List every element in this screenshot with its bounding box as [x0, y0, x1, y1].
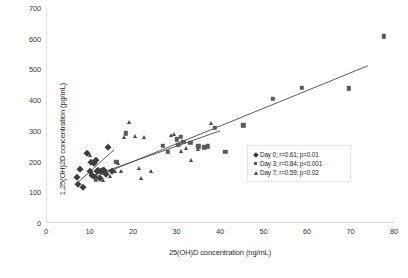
- x-tick-label: 30: [173, 227, 181, 236]
- data-point-square: [188, 140, 192, 144]
- data-point-triangle: [133, 134, 137, 138]
- y-tick-label: 500: [29, 65, 41, 74]
- data-point-triangle: [184, 146, 188, 150]
- y-tick-label: 200: [29, 157, 41, 166]
- x-axis-title: 25(OH)D concentration (ng/mL): [46, 248, 394, 257]
- data-point-square: [223, 150, 227, 154]
- data-point-triangle: [189, 158, 193, 162]
- data-point-triangle: [88, 153, 92, 157]
- data-point-triangle: [137, 166, 141, 170]
- day3-square-icon: [252, 162, 259, 166]
- data-point-square: [93, 178, 97, 182]
- y-tick-label: 300: [29, 126, 41, 135]
- data-point-triangle: [209, 121, 213, 125]
- data-point-square: [347, 86, 351, 90]
- data-point-square: [206, 144, 210, 148]
- legend: Day 0; r=0.61; p=0.01 Day 3; r=0.84; p<0…: [247, 145, 351, 182]
- data-point-triangle: [113, 169, 117, 173]
- legend-item: Day 0; r=0.61; p=0.01: [252, 150, 347, 159]
- day7-triangle-icon: [252, 171, 259, 175]
- data-point-triangle: [139, 176, 143, 180]
- x-tick-label: 60: [303, 227, 311, 236]
- data-point-triangle: [179, 149, 183, 153]
- x-tick-label: 10: [86, 227, 94, 236]
- y-tick-label: 600: [29, 34, 41, 43]
- data-point-triangle: [149, 169, 153, 173]
- data-point-square: [181, 139, 185, 143]
- x-tick-label: 70: [347, 227, 355, 236]
- y-tick-label: 700: [29, 4, 41, 13]
- legend-item: Day 3; r=0.84; p<0.001: [252, 159, 347, 168]
- data-point-triangle: [127, 120, 131, 124]
- legend-item-label: Day 7; r=0.59; p=0.02: [260, 169, 319, 176]
- y-tick-label: 100: [29, 188, 41, 197]
- data-point-triangle: [196, 147, 200, 151]
- x-tick-label: 20: [129, 227, 137, 236]
- data-point-square: [300, 86, 304, 90]
- data-point-square: [166, 150, 170, 154]
- legend-item-label: Day 0; r=0.61; p=0.01: [260, 151, 319, 158]
- data-point-square: [241, 123, 245, 127]
- data-point-triangle: [116, 161, 120, 165]
- data-point-triangle: [142, 135, 146, 139]
- data-point-triangle: [122, 135, 126, 139]
- data-point-square: [176, 142, 180, 146]
- data-point-square: [160, 143, 164, 147]
- scatter-plot-figure: 1,25(OH)2D concentration (pg/mL) 25(OH)D…: [0, 0, 408, 278]
- data-point-square: [213, 126, 217, 130]
- x-tick-label: 40: [216, 227, 224, 236]
- x-tick-label: 50: [260, 227, 268, 236]
- data-point-square: [381, 34, 385, 38]
- legend-item: Day 7; r=0.59; p=0.02: [252, 168, 347, 177]
- data-point-square: [271, 96, 275, 100]
- data-point-triangle: [119, 169, 123, 173]
- data-point-triangle: [108, 174, 112, 178]
- legend-item-label: Day 3; r=0.84; p<0.001: [260, 160, 322, 167]
- day0-diamond-icon: [252, 153, 259, 157]
- y-tick-label: 0: [37, 219, 41, 228]
- plot-area: 0100200300400500600700 01020304050607080: [46, 8, 394, 223]
- data-point-triangle: [101, 178, 105, 182]
- trend-lines: [46, 8, 394, 223]
- data-point-triangle: [172, 132, 176, 136]
- x-tick-label: 80: [390, 227, 398, 236]
- x-tick-label: 0: [44, 227, 48, 236]
- y-tick-label: 400: [29, 96, 41, 105]
